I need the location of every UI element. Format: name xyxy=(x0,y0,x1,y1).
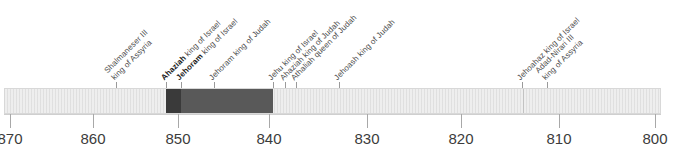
axis-tick-mark xyxy=(367,114,368,128)
axis-tick-label: 840 xyxy=(256,130,281,147)
axis-tick-label: 830 xyxy=(354,130,379,147)
axis-tick-label: 850 xyxy=(165,130,190,147)
axis-tick-label: 800 xyxy=(642,130,667,147)
axis-tick-label: 810 xyxy=(546,130,571,147)
axis-tick-label: 870 xyxy=(0,130,23,147)
axis-tick-label: 820 xyxy=(448,130,473,147)
event-label-line: Ahaziah king of Judah xyxy=(278,18,342,82)
axis-tick-mark xyxy=(269,114,270,128)
axis-tick-mark xyxy=(178,114,179,128)
axis-line xyxy=(4,114,661,115)
axis-tick-mark xyxy=(461,114,462,128)
timeline-figure: Shalmaneser IIIking of AssyriaAhaziah ki… xyxy=(0,0,673,162)
axis-tick-label: 860 xyxy=(80,130,105,147)
event-label-ahaziah-judah: Ahaziah king of Judah xyxy=(278,18,342,82)
divider-812 xyxy=(523,89,524,113)
axis-tick-mark xyxy=(93,114,94,128)
timeline-band xyxy=(4,88,661,114)
ahaziah-israel-reign xyxy=(166,89,181,113)
jehoram-israel-reign xyxy=(181,89,273,113)
axis-tick-mark xyxy=(10,114,11,128)
event-label-shalmaneser-iii: Shalmaneser IIIking of Assyria xyxy=(103,28,157,82)
axis-tick-mark xyxy=(655,114,656,128)
axis-tick-mark xyxy=(559,114,560,128)
